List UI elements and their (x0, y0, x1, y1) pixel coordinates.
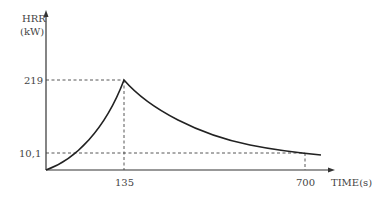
hrr-chart: HRR (kW) 219 10,1 135 700 TIME(s) (0, 0, 387, 200)
y-tick-219: 219 (24, 75, 43, 86)
x-axis-label: TIME(s) (331, 177, 372, 188)
x-tick-135: 135 (115, 177, 134, 188)
y-axis-label-line2: (kW) (20, 26, 44, 37)
hrr-curve (46, 80, 321, 170)
x-axis-arrow-icon (328, 168, 335, 173)
y-tick-10-1: 10,1 (19, 148, 41, 159)
reference-lines (46, 80, 305, 170)
y-axis-label-line1: HRR (22, 13, 46, 24)
x-tick-700: 700 (296, 177, 315, 188)
